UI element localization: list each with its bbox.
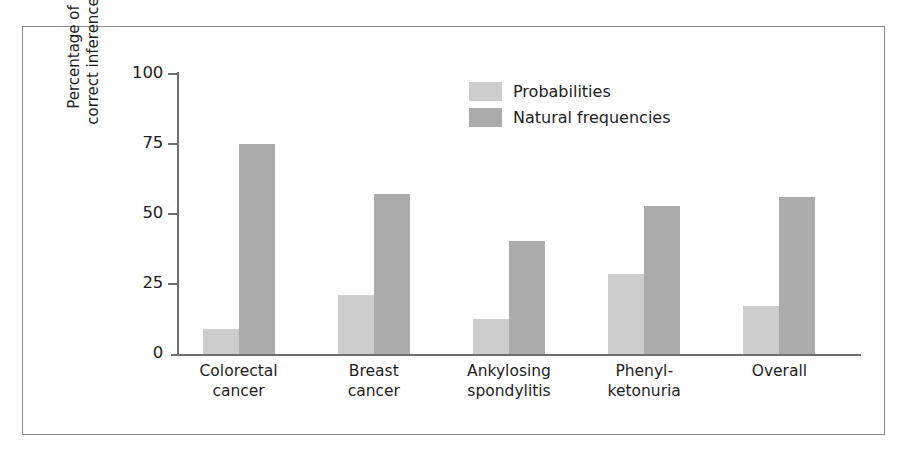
bar xyxy=(239,144,275,354)
bar xyxy=(374,194,410,354)
category-label-line: ketonuria xyxy=(554,381,734,401)
bar xyxy=(509,241,545,354)
legend-item-probabilities: Probabilities xyxy=(469,82,671,101)
y-axis-tick-label-100: 100 xyxy=(123,63,163,82)
bar xyxy=(473,319,509,354)
y-axis-title-line-1: Percentage of xyxy=(65,0,84,147)
bar xyxy=(644,206,680,354)
x-axis-line xyxy=(171,354,861,356)
y-axis-tick-100 xyxy=(168,73,177,75)
bar-group xyxy=(203,74,275,354)
chart-legend: Probabilities Natural frequencies xyxy=(469,82,671,134)
legend-label-probabilities: Probabilities xyxy=(513,82,611,101)
y-axis-tick-75 xyxy=(168,143,177,145)
legend-label-natural-frequencies: Natural frequencies xyxy=(513,108,671,127)
y-axis-tick-25 xyxy=(168,283,177,285)
figure-frame: Percentage of correct inferences 0255075… xyxy=(22,26,885,435)
y-axis-tick-label-0: 0 xyxy=(123,343,163,362)
y-axis-title-line-2: correct inferences xyxy=(84,0,103,147)
y-axis-tick-label-25: 25 xyxy=(123,273,163,292)
legend-swatch-natural-frequencies xyxy=(469,108,502,127)
legend-swatch-probabilities xyxy=(469,82,502,101)
bar xyxy=(608,274,644,354)
y-axis-tick-50 xyxy=(168,213,177,215)
category-label-line: Overall xyxy=(689,361,869,381)
x-axis-category-label: Overall xyxy=(689,361,869,381)
y-axis-tick-label-50: 50 xyxy=(123,203,163,222)
bar-group xyxy=(743,74,815,354)
legend-item-natural-frequencies: Natural frequencies xyxy=(469,108,671,127)
y-axis-title: Percentage of correct inferences xyxy=(65,0,103,147)
bar-group xyxy=(338,74,410,354)
y-axis-tick-label-75: 75 xyxy=(123,133,163,152)
bar xyxy=(779,197,815,354)
bar xyxy=(203,329,239,354)
bar xyxy=(338,295,374,354)
bar xyxy=(743,306,779,354)
